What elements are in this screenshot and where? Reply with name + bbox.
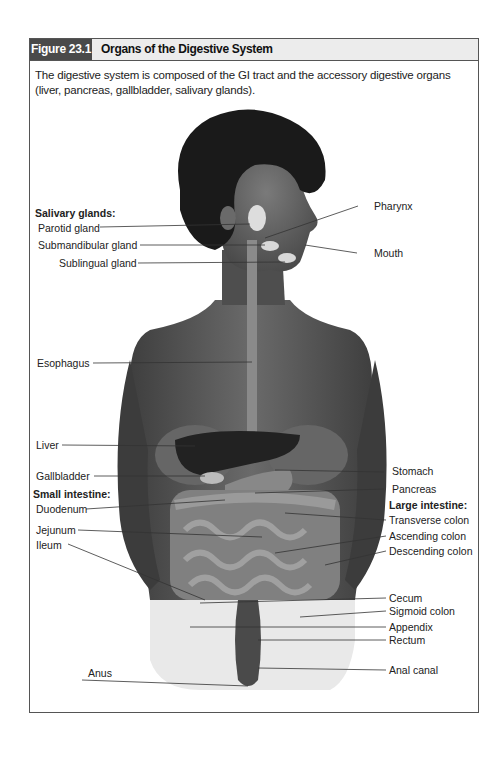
label-liver: Liver [36,439,59,451]
label-sublingual-gland: Sublingual gland [59,257,137,269]
label-anal-canal: Anal canal [389,664,438,676]
label-duodenum: Duodenum [36,503,87,515]
label-jejunum: Jejunum [36,524,76,536]
label-rectum: Rectum [389,634,425,646]
label-ileum: Ileum [36,539,62,551]
label-ascending-colon: Ascending colon [389,530,466,542]
label-pharynx: Pharynx [374,200,413,212]
label-mouth: Mouth [374,247,403,259]
label-esophagus: Esophagus [37,357,90,369]
figure-header: Figure 23.1 Organs of the Digestive Syst… [30,39,478,61]
label-large-intestine-heading: Large intestine: [389,499,467,511]
label-sigmoid-colon: Sigmoid colon [389,605,455,617]
label-transverse-colon: Transverse colon [389,514,469,526]
label-small-intestine-heading: Small intestine: [33,488,111,500]
figure-number: Figure 23.1 [30,39,92,60]
label-submandibular-gland: Submandibular gland [38,239,137,251]
label-appendix: Appendix [389,621,433,633]
label-parotid-gland: Parotid gland [38,222,100,234]
label-stomach: Stomach [392,465,433,477]
label-gallbladder: Gallbladder [36,470,90,482]
label-anus: Anus [88,667,112,679]
figure-caption: The digestive system is composed of the … [35,68,465,97]
label-pancreas: Pancreas [392,483,436,495]
figure-title: Organs of the Digestive System [101,39,273,60]
label-descending-colon: Descending colon [389,545,472,557]
label-salivary-glands-heading: Salivary glands: [35,207,116,219]
label-cecum: Cecum [389,592,422,604]
